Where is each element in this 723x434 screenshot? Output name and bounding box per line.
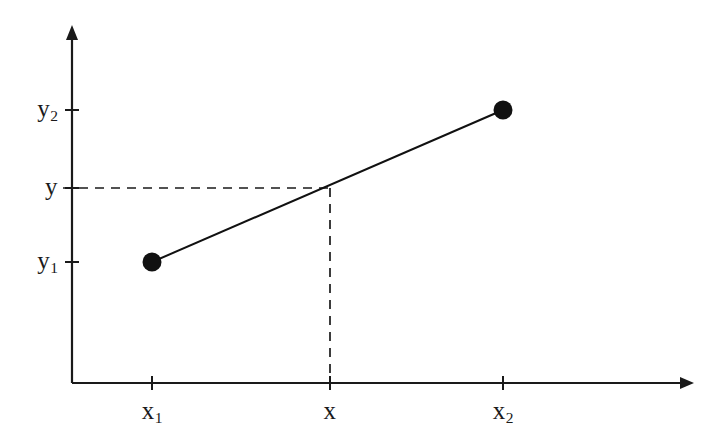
x2-base: x <box>493 397 506 424</box>
y1-base: y <box>37 247 50 274</box>
x-subscript <box>336 409 337 426</box>
y1-subscript: 1 <box>50 259 58 276</box>
x-axis-label-x2: x2 <box>493 398 514 426</box>
data-point-2 <box>494 101 513 120</box>
plot-canvas <box>0 0 723 434</box>
x-base: x <box>324 397 337 424</box>
x1-subscript: 1 <box>154 409 162 426</box>
x-axis-label-x1: x1 <box>142 398 163 426</box>
y2-base: y <box>37 95 50 122</box>
interpolation-figure: y2 y y1 x1 x x2 <box>0 0 723 434</box>
x-axis-arrowhead <box>680 377 694 389</box>
y-axis-label-y1: y1 <box>18 248 58 276</box>
x1-base: x <box>142 397 155 424</box>
x-axis-label-x: x <box>324 398 337 426</box>
interpolation-line <box>152 110 503 262</box>
guide-lines <box>63 188 330 383</box>
y-axis-label-y2: y2 <box>18 96 58 124</box>
y-axis-arrowhead <box>66 25 78 40</box>
y-base: y <box>45 173 58 200</box>
y-axis-label-y: y <box>18 174 58 202</box>
y2-subscript: 2 <box>50 107 58 124</box>
y-subscript <box>58 185 59 202</box>
axes-group <box>66 25 694 389</box>
data-point-1 <box>143 253 162 272</box>
x2-subscript: 2 <box>505 409 513 426</box>
